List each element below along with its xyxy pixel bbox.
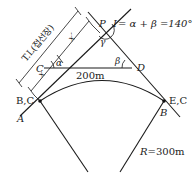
chord-length-label: 200m [76, 70, 105, 81]
label-d: D [136, 62, 145, 73]
label-alpha: α [56, 58, 62, 68]
radius-line-right [120, 101, 164, 172]
formula-label: I= α + β =140° [112, 18, 192, 29]
label-p: P [98, 18, 106, 29]
label-ec: E,C [169, 95, 187, 106]
tangent-length-label: T.L(접선장) [19, 22, 56, 63]
radius-label: R=300m [139, 146, 185, 157]
curve-diagram: P I= α + β =140° γ C α β D 200m B,C A E,… [0, 0, 196, 173]
circular-arc [40, 81, 164, 102]
x-prime-label: x′ [66, 31, 78, 43]
label-gamma: γ [100, 37, 106, 47]
label-a: A [16, 113, 24, 124]
ec-point [162, 99, 166, 103]
label-beta: β [114, 56, 120, 66]
label-bc: B,C [16, 95, 35, 106]
label-b: B [159, 107, 167, 118]
radius-line-left [40, 101, 88, 172]
beta-arc [122, 60, 125, 68]
